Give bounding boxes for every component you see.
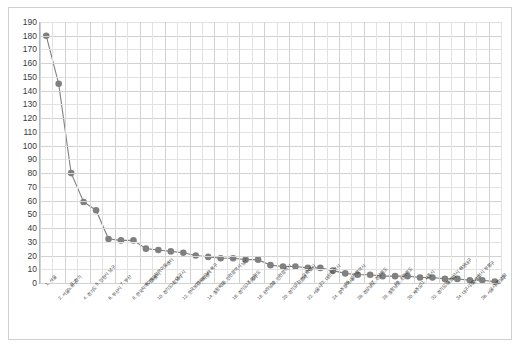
y-axis-tick-label: 20 xyxy=(11,251,37,260)
gridline-horizontal xyxy=(40,146,501,147)
gridline-horizontal xyxy=(40,173,501,174)
gridline-vertical xyxy=(376,22,377,283)
gridline-vertical xyxy=(102,22,103,283)
gridline-vertical xyxy=(389,22,390,283)
gridline-vertical xyxy=(227,22,228,283)
gridline-vertical xyxy=(501,22,502,283)
gridline-vertical xyxy=(190,22,191,283)
gridline-vertical xyxy=(426,22,427,283)
y-axis-tick-label: 40 xyxy=(11,224,37,233)
data-point-marker xyxy=(55,81,62,88)
gridline-horizontal xyxy=(40,104,501,105)
gridline-vertical xyxy=(115,22,116,283)
gridline-horizontal xyxy=(40,242,501,243)
y-axis-tick-label: 170 xyxy=(11,45,37,54)
gridline-vertical xyxy=(439,22,440,283)
y-axis-tick-label: 130 xyxy=(11,100,37,109)
y-axis-tick-label: 0 xyxy=(11,279,37,288)
y-axis-tick-label: 80 xyxy=(11,169,37,178)
gridline-horizontal xyxy=(40,63,501,64)
gridline-vertical xyxy=(252,22,253,283)
y-axis-tick-label: 180 xyxy=(11,31,37,40)
y-axis-tick-label: 60 xyxy=(11,196,37,205)
gridline-horizontal xyxy=(40,36,501,37)
gridline-vertical xyxy=(289,22,290,283)
gridline-vertical xyxy=(451,22,452,283)
gridline-vertical xyxy=(302,22,303,283)
y-axis-tick-label: 150 xyxy=(11,73,37,82)
y-axis-tick-label: 10 xyxy=(11,265,37,274)
gridline-horizontal xyxy=(40,77,501,78)
plot-area xyxy=(39,22,501,284)
gridline-vertical xyxy=(127,22,128,283)
y-axis-tick-label: 50 xyxy=(11,210,37,219)
gridline-vertical xyxy=(165,22,166,283)
gridline-horizontal xyxy=(40,132,501,133)
line-series xyxy=(40,22,501,283)
y-axis-tick-label: 110 xyxy=(11,128,37,137)
y-axis-tick-label: 160 xyxy=(11,59,37,68)
gridline-vertical xyxy=(77,22,78,283)
gridline-vertical xyxy=(476,22,477,283)
data-point-marker xyxy=(93,207,100,214)
gridline-vertical xyxy=(202,22,203,283)
x-axis-labels: 1. 서울2. 서울노원구3. 경기4. 경기도5. 인천시 남구6. 부산시7… xyxy=(39,284,501,340)
x-axis-tick-label: 4. 경기도 xyxy=(83,286,98,301)
y-axis-tick-label: 140 xyxy=(11,86,37,95)
gridline-vertical xyxy=(339,22,340,283)
gridline-vertical xyxy=(90,22,91,283)
y-axis: 1901801701601501401301201101009080706050… xyxy=(9,22,37,284)
gridline-vertical xyxy=(214,22,215,283)
gridline-vertical xyxy=(364,22,365,283)
y-axis-tick-label: 100 xyxy=(11,141,37,150)
gridline-vertical xyxy=(489,22,490,283)
gridline-vertical xyxy=(52,22,53,283)
gridline-horizontal xyxy=(40,159,501,160)
data-point-marker xyxy=(367,271,374,278)
gridline-horizontal xyxy=(40,118,501,119)
data-point-marker xyxy=(342,270,349,277)
gridline-vertical xyxy=(314,22,315,283)
gridline-vertical xyxy=(140,22,141,283)
gridline-vertical xyxy=(277,22,278,283)
gridline-horizontal xyxy=(40,228,501,229)
gridline-vertical xyxy=(152,22,153,283)
gridline-vertical xyxy=(351,22,352,283)
gridline-vertical xyxy=(414,22,415,283)
x-axis-tick-label: 6. 부산시 xyxy=(108,286,123,301)
y-axis-tick-label: 90 xyxy=(11,155,37,164)
gridline-vertical xyxy=(327,22,328,283)
gridline-horizontal xyxy=(40,49,501,50)
y-axis-tick-label: 30 xyxy=(11,238,37,247)
gridline-horizontal xyxy=(40,91,501,92)
gridline-horizontal xyxy=(40,22,501,23)
gridline-horizontal xyxy=(40,201,501,202)
gridline-vertical xyxy=(239,22,240,283)
data-point-marker xyxy=(155,247,162,254)
data-point-marker xyxy=(168,248,175,255)
gridline-vertical xyxy=(464,22,465,283)
y-axis-tick-label: 190 xyxy=(11,18,37,27)
y-axis-tick-label: 70 xyxy=(11,183,37,192)
data-point-marker xyxy=(255,256,262,263)
gridline-vertical xyxy=(40,22,41,283)
gridline-vertical xyxy=(401,22,402,283)
gridline-vertical xyxy=(264,22,265,283)
y-axis-tick-label: 120 xyxy=(11,114,37,123)
gridline-vertical xyxy=(177,22,178,283)
gridline-vertical xyxy=(65,22,66,283)
gridline-horizontal xyxy=(40,214,501,215)
data-point-marker xyxy=(267,262,274,269)
gridline-horizontal xyxy=(40,187,501,188)
gridline-horizontal xyxy=(40,256,501,257)
chart-frame: 1901801701601501401301201101009080706050… xyxy=(8,7,512,340)
data-point-marker xyxy=(143,245,150,252)
